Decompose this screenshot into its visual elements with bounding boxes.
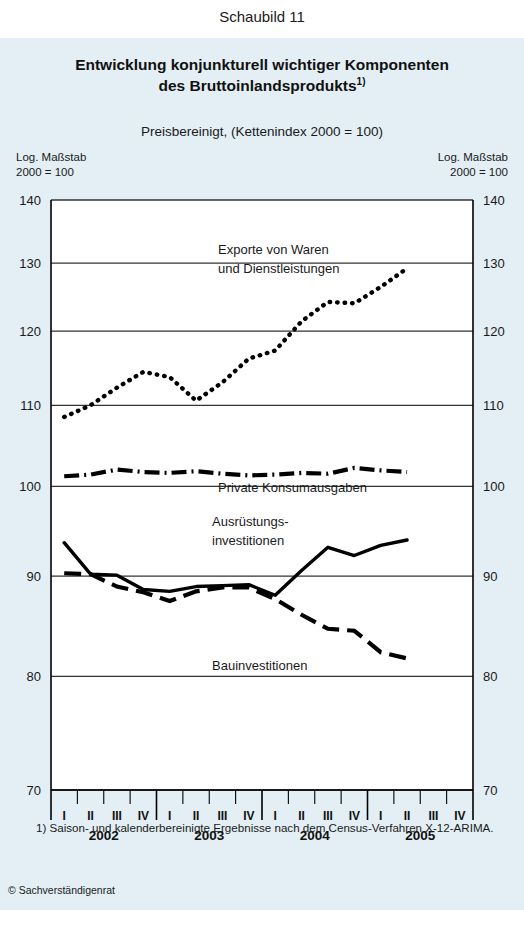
series-annotation-2-line2: investitionen bbox=[212, 533, 284, 548]
plot-background bbox=[51, 200, 473, 790]
y-tick-label-right-110: 110 bbox=[483, 398, 504, 413]
series-annotation-3-line1: Bauinvestitionen bbox=[212, 658, 307, 673]
chart-svg: 7070808090901001001101101201201301301401… bbox=[0, 38, 524, 910]
series-annotation-1-line1: Private Konsumausgaben bbox=[218, 480, 367, 495]
y-tick-label-right-130: 130 bbox=[483, 256, 505, 271]
series-annotation-0-line1: Exporte von Waren bbox=[218, 242, 329, 257]
chart-footnote: 1) Saison- und kalenderbereinigte Ergebn… bbox=[36, 820, 506, 835]
y-tick-label-right-90: 90 bbox=[483, 569, 497, 584]
y-tick-label-right-70: 70 bbox=[483, 783, 497, 798]
y-tick-label-left-70: 70 bbox=[27, 783, 41, 798]
plot-area: 7070808090901001001101101201201301301401… bbox=[0, 38, 524, 910]
y-tick-label-left-120: 120 bbox=[19, 324, 41, 339]
y-tick-label-right-100: 100 bbox=[483, 479, 505, 494]
series-annotation-0-line2: und Dienstleistungen bbox=[218, 261, 339, 276]
y-tick-label-left-90: 90 bbox=[27, 569, 41, 584]
chart-panel: Entwicklung konjunkturell wichtiger Komp… bbox=[0, 38, 524, 910]
y-tick-label-right-140: 140 bbox=[483, 193, 505, 208]
y-tick-label-left-140: 140 bbox=[19, 193, 41, 208]
copyright-credit: © Sachverständigenrat bbox=[8, 884, 115, 896]
y-tick-label-right-80: 80 bbox=[483, 669, 497, 684]
figure-caption: Schaubild 11 bbox=[0, 8, 524, 25]
series-annotation-2-line1: Ausrüstungs- bbox=[212, 514, 289, 529]
y-tick-label-right-120: 120 bbox=[483, 324, 505, 339]
y-tick-label-left-100: 100 bbox=[19, 479, 41, 494]
y-tick-label-left-130: 130 bbox=[19, 256, 41, 271]
y-tick-label-left-80: 80 bbox=[27, 669, 41, 684]
y-tick-label-left-110: 110 bbox=[20, 398, 41, 413]
